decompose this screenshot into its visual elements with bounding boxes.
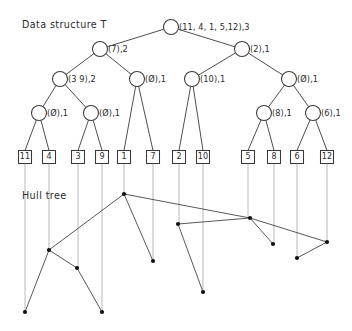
hull-edge-v5-v12 (250, 218, 327, 242)
tree-node-label-n4: (Ø),1 (145, 74, 166, 84)
leaf-edge-n10-L12 (316, 120, 327, 150)
tree-node-circle-n1[interactable] (93, 42, 108, 57)
tree-edge-n0-n2 (178, 29, 235, 47)
tree-diagram-svg (0, 0, 352, 331)
leaf-label-L2: 2 (173, 152, 186, 161)
caption-data-structure: Data structure T (22, 19, 107, 30)
leaf-label-L3: 3 (72, 152, 85, 161)
hull-vertex-v2[interactable] (176, 222, 180, 226)
tree-node-label-n9: (8),1 (272, 108, 292, 118)
tree-node-label-n6: (Ø),1 (297, 74, 318, 84)
tree-edge-n6-n10 (293, 85, 308, 107)
tree-edge-n1-n3 (66, 54, 94, 75)
tree-edge-n2-n6 (248, 53, 282, 75)
tree-node-circle-n8[interactable] (84, 106, 99, 121)
hull-edge-v3-v9 (77, 268, 102, 312)
leaf-label-L5: 5 (242, 152, 255, 161)
hull-vertex-v9[interactable] (100, 310, 104, 314)
hull-edge-v12-v6 (297, 242, 327, 258)
hull-vertex-v7[interactable] (151, 259, 155, 263)
tree-node-circle-n9[interactable] (257, 106, 272, 121)
hull-vertex-v12[interactable] (325, 240, 329, 244)
hull-vertex-v4[interactable] (47, 248, 51, 252)
leaf-label-L6: 6 (291, 152, 304, 161)
leaf-label-L10: 10 (197, 152, 210, 161)
leaf-label-L8: 8 (268, 152, 281, 161)
tree-node-circle-n3[interactable] (53, 72, 68, 87)
leaf-label-L7: 7 (147, 152, 160, 161)
tree-node-label-n8: (Ø),1 (99, 108, 120, 118)
figure-canvas: Data structure T Hull tree (11, 4, 1, 5,… (0, 0, 352, 331)
tree-nodes-group (32, 20, 321, 121)
hull-vertex-v8[interactable] (271, 242, 275, 246)
leaf-edge-n8-L3 (78, 120, 89, 150)
hull-vertex-v1[interactable] (122, 192, 126, 196)
hull-edge-v1-v4 (49, 194, 124, 250)
tree-node-label-n2: (2),1 (250, 44, 270, 54)
leaf-edge-n4-L1 (124, 86, 136, 150)
tree-edge-n3-n8 (65, 85, 86, 108)
leaf-edge-n5-L10 (193, 86, 203, 150)
leaf-label-L4: 4 (43, 152, 56, 161)
tree-node-circle-n5[interactable] (185, 72, 200, 87)
leaf-edge-n9-L8 (266, 120, 274, 150)
tree-edge-n3-n7 (43, 85, 56, 106)
hull-edge-v1-v5 (124, 194, 250, 218)
hull-vertex-v3[interactable] (75, 266, 79, 270)
tree-node-label-n1: (7),2 (108, 44, 128, 54)
leaf-edge-n7-L4 (41, 120, 49, 150)
hull-vertex-v6[interactable] (295, 256, 299, 260)
leaf-edge-n7-L11 (25, 120, 36, 150)
hull-edge-v2-v5 (178, 218, 250, 224)
hull-vertex-v10[interactable] (201, 290, 205, 294)
hull-vertices-group (23, 192, 329, 314)
caption-hull-tree: Hull tree (22, 190, 67, 201)
hull-vertex-v5[interactable] (248, 216, 252, 220)
tree-node-label-n0: (11, 4, 1, 5,12),3 (179, 22, 250, 32)
hull-vertex-v11[interactable] (23, 310, 27, 314)
tree-edge-n6-n9 (268, 85, 284, 107)
tree-node-label-n10: (6),1 (321, 108, 341, 118)
tree-node-label-n7: (Ø),1 (47, 108, 68, 118)
hull-edges-group (25, 194, 327, 312)
leaf-label-L11: 11 (19, 152, 32, 161)
leaf-edge-n9-L5 (248, 120, 261, 151)
tree-node-label-n5: (10),1 (200, 74, 225, 84)
hull-edge-v2-v10 (178, 224, 203, 292)
tree-node-circle-n4[interactable] (130, 72, 145, 87)
leaf-edge-n10-L6 (297, 120, 310, 151)
tree-edges-group (25, 29, 327, 150)
leaf-edge-n8-L9 (93, 120, 102, 150)
leaf-label-L1: 1 (118, 152, 131, 161)
hull-edge-v1-v7 (124, 194, 153, 261)
tree-edge-n2-n5 (198, 53, 235, 75)
tree-node-circle-n6[interactable] (282, 72, 297, 87)
leaf-stems-group (25, 164, 327, 312)
tree-node-circle-n7[interactable] (32, 106, 47, 121)
hull-edge-v4-v11 (25, 250, 49, 312)
leaf-edge-n5-L2 (179, 86, 191, 150)
leaf-label-L12: 12 (321, 152, 334, 161)
tree-edge-n1-n4 (106, 54, 131, 75)
leaf-edge-n4-L7 (139, 86, 153, 150)
tree-node-label-n3: (3 9),2 (68, 74, 96, 84)
tree-node-circle-n10[interactable] (306, 106, 321, 121)
tree-node-circle-n0[interactable] (164, 20, 179, 35)
leaf-label-L9: 9 (96, 152, 109, 161)
tree-node-circle-n2[interactable] (235, 42, 250, 57)
hull-edge-v4-v3 (49, 250, 77, 268)
